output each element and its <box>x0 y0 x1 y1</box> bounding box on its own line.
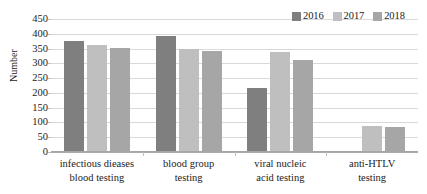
x-axis-category-label-line: blood group <box>143 157 235 171</box>
y-axis-tick-label: 300 <box>22 58 48 69</box>
y-axis-tick-label: 350 <box>22 43 48 54</box>
y-axis-tick-label: 100 <box>22 117 48 128</box>
bar[interactable] <box>247 88 267 152</box>
legend-swatch-icon <box>292 12 301 21</box>
x-axis-category-label-line: testing <box>326 171 418 185</box>
y-axis-tick-label: 200 <box>22 88 48 99</box>
y-axis-tick-labels: 050100150200250300350400450 <box>22 19 48 152</box>
x-axis-category-label: infectious dieasesblood testing <box>51 157 143 185</box>
x-axis-category-label-line: acid testing <box>235 171 327 185</box>
y-axis-tick-label: 450 <box>22 14 48 25</box>
y-axis-title: Number <box>8 36 19 96</box>
x-axis-category-label: blood grouptesting <box>143 157 235 185</box>
x-axis-category-label: viral nucleicacid testing <box>235 157 327 185</box>
category-divider <box>235 152 236 156</box>
y-axis-tick-label: 400 <box>22 29 48 40</box>
bar[interactable] <box>270 52 290 152</box>
bar[interactable] <box>156 36 176 152</box>
bar[interactable] <box>202 51 222 152</box>
legend-entry[interactable]: 2016 <box>292 11 324 22</box>
legend-label: 2018 <box>384 11 405 22</box>
bar[interactable] <box>362 126 382 152</box>
y-axis-tick-label: 250 <box>22 73 48 84</box>
x-axis-category-label-line: testing <box>143 171 235 185</box>
bar[interactable] <box>385 127 405 152</box>
legend-entry[interactable]: 2018 <box>373 11 405 22</box>
y-axis-tickmark <box>48 152 51 153</box>
y-axis-tick-label: 50 <box>22 132 48 143</box>
y-axis-tick-label: 150 <box>22 102 48 113</box>
bar[interactable] <box>293 60 313 152</box>
plot-area <box>51 19 418 152</box>
x-axis-category-label-line: viral nucleic <box>235 157 327 171</box>
bar[interactable] <box>179 49 199 152</box>
legend-swatch-icon <box>333 12 342 21</box>
category-divider <box>326 152 327 156</box>
x-axis-category-label-line: anti-HTLV <box>326 157 418 171</box>
bar[interactable] <box>64 41 84 152</box>
legend-label: 2016 <box>303 11 324 22</box>
x-axis-category-label: anti-HTLVtesting <box>326 157 418 185</box>
chart-legend: 201620172018 <box>292 11 405 22</box>
grouped-bar-chart: 201620172018 Number 05010015020025030035… <box>0 0 427 194</box>
x-axis-category-label-line: infectious dieases <box>51 157 143 171</box>
x-axis-category-labels: infectious dieasesblood testingblood gro… <box>51 157 418 193</box>
legend-label: 2017 <box>344 11 365 22</box>
legend-entry[interactable]: 2017 <box>333 11 365 22</box>
bar[interactable] <box>110 48 130 152</box>
y-axis-tick-label: 0 <box>22 147 48 158</box>
bars-layer <box>51 19 418 152</box>
x-axis-category-label-line: blood testing <box>51 171 143 185</box>
legend-swatch-icon <box>373 12 382 21</box>
bar[interactable] <box>87 45 107 152</box>
category-divider <box>143 152 144 156</box>
